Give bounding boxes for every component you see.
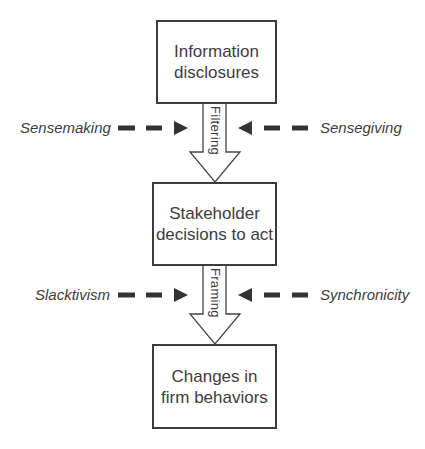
synchronicity-dashed-arrow-icon — [238, 288, 308, 302]
synchronicity-label: Synchronicity — [320, 286, 409, 303]
sensegiving-dashed-arrow-icon — [238, 121, 308, 135]
box-changes-firm-behaviors: Changes in firm behaviors — [152, 344, 277, 429]
slacktivism-label: Slacktivism — [35, 286, 110, 303]
framing-label: Framing — [208, 268, 223, 318]
sensegiving-label: Sensegiving — [320, 119, 402, 136]
box-label: Changes in firm behaviors — [161, 366, 268, 408]
filtering-label: Filtering — [208, 106, 223, 155]
box-label: Stakeholder decisions to act — [156, 203, 273, 245]
sensemaking-label: Sensemaking — [20, 119, 111, 136]
box-information-disclosures: Information disclosures — [156, 20, 277, 104]
slacktivism-dashed-arrow-icon — [118, 288, 188, 302]
box-label: Information disclosures — [174, 41, 259, 83]
box-stakeholder-decisions: Stakeholder decisions to act — [152, 182, 277, 266]
sensemaking-dashed-arrow-icon — [118, 121, 188, 135]
